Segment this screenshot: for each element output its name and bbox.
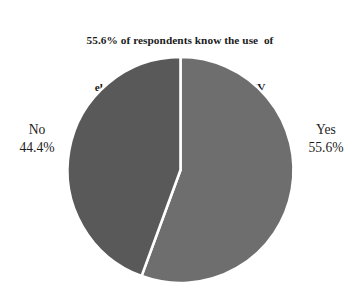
pie-chart-figure: 55.6% of respondents know the use of ele… xyxy=(0,0,360,299)
slice-label-no-percent: 44.4% xyxy=(6,139,68,157)
slice-label-yes-percent: 55.6% xyxy=(294,139,358,157)
pie-slices-group xyxy=(67,57,293,283)
slice-label-no-name: No xyxy=(6,121,68,139)
slice-label-yes-name: Yes xyxy=(294,121,358,139)
slice-label-yes: Yes 55.6% xyxy=(294,121,358,156)
slice-label-no: No 44.4% xyxy=(6,121,68,156)
